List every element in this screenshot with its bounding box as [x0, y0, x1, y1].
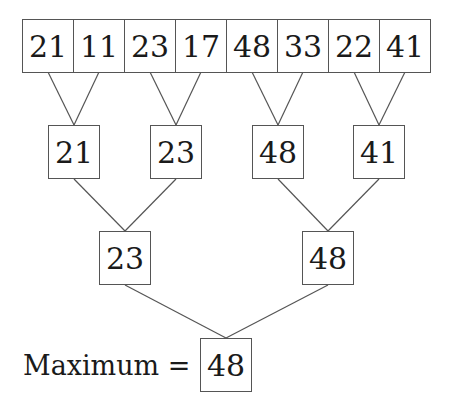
- input-cell: 23: [124, 19, 176, 73]
- input-cell: 17: [175, 19, 227, 73]
- maximum-label: Maximum =: [23, 350, 190, 381]
- input-cell: 11: [73, 19, 125, 73]
- level2-node: 48: [302, 231, 354, 285]
- input-cell: 33: [277, 19, 329, 73]
- level1-node: 41: [353, 125, 405, 179]
- level2-node: 23: [99, 231, 151, 285]
- input-cell: 41: [379, 19, 431, 73]
- level1-node: 48: [252, 125, 304, 179]
- input-cell: 22: [328, 19, 380, 73]
- maximum-result-node: 48: [200, 338, 252, 392]
- input-cell: 21: [22, 19, 74, 73]
- level1-node: 23: [150, 125, 202, 179]
- level1-node: 21: [48, 125, 100, 179]
- input-cell: 48: [226, 19, 278, 73]
- max-reduction-diagram: 21 11 23 17 48 33 22 41 21 23 48 41 23 4…: [0, 0, 449, 414]
